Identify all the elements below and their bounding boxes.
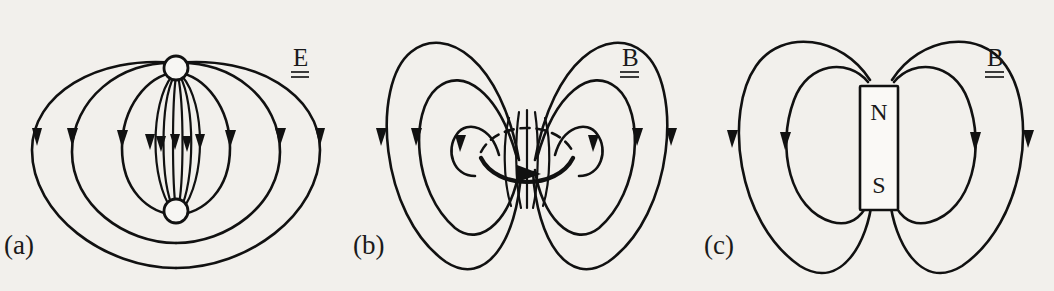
field-symbol-e: E <box>291 44 309 77</box>
bar-magnet: N S <box>860 86 898 210</box>
field-symbol-e-text: E <box>293 44 308 71</box>
panel-b-current-loop: B (b) <box>351 0 702 291</box>
panel-c-bar-magnet: N S B (c) <box>702 0 1054 291</box>
magnet-south-label: S <box>872 172 885 198</box>
panel-b-label: (b) <box>353 230 384 260</box>
field-line-figure: E (a) <box>0 0 1054 291</box>
dipole-charge-top <box>164 56 188 80</box>
field-symbol-b-magnet-text: B <box>987 44 1004 71</box>
field-symbol-b-magnet: B <box>985 44 1004 77</box>
panel-a-label: (a) <box>4 230 34 260</box>
field-symbol-b-loop: B <box>620 44 639 77</box>
field-symbol-b-loop-text: B <box>622 44 639 71</box>
dipole-charge-bottom <box>164 199 188 223</box>
panel-c-label: (c) <box>704 230 734 260</box>
magnet-north-label: N <box>870 99 887 125</box>
panel-a-electric-dipole: E (a) <box>0 0 351 291</box>
